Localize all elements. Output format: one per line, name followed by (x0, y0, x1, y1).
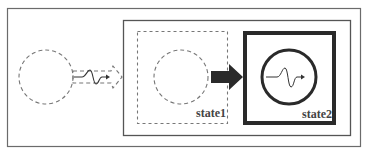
state2-box[interactable]: state2 (245, 33, 334, 123)
state1-label: state1 (196, 106, 226, 120)
initial-state-circle (19, 50, 73, 104)
dashed-transition-arrow (73, 66, 122, 88)
state1-circle (154, 50, 208, 104)
state-transition-diagram: state1 state2 (0, 0, 368, 151)
state2-label: state2 (302, 107, 332, 121)
signal-pulse-icon (74, 70, 110, 84)
